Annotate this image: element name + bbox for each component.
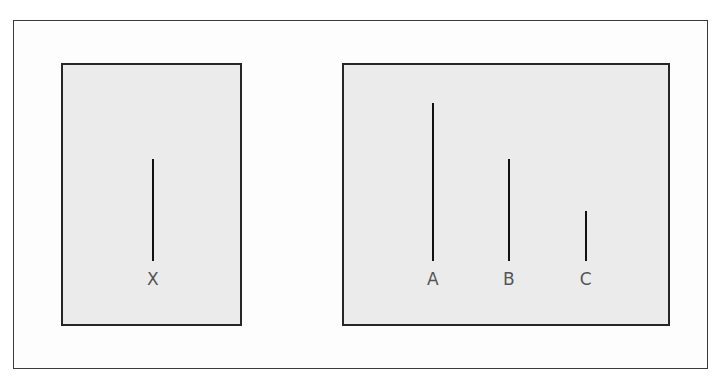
line-label-c: C [570, 271, 602, 288]
standard-line-card[interactable]: X [61, 63, 242, 326]
line-label-b: B [493, 271, 525, 288]
line-label-x: X [137, 271, 169, 288]
line-stroke-x [152, 159, 154, 261]
line-label-a: A [417, 271, 449, 288]
line-stroke-b [508, 159, 510, 261]
figure-outer-border: X A B C [13, 20, 708, 369]
line-stroke-a [432, 103, 434, 261]
comparison-lines-card[interactable]: A B C [342, 63, 670, 326]
figure-root: X A B C [0, 0, 722, 390]
line-stroke-c [585, 211, 587, 261]
